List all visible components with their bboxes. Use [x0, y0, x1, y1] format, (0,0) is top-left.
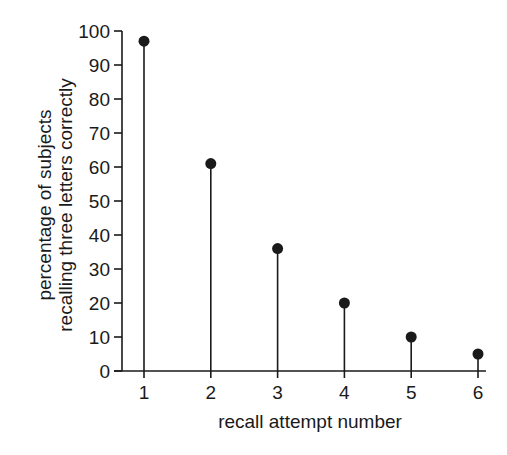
- y-tick-label: 40: [89, 225, 110, 246]
- data-stems: [139, 36, 484, 371]
- y-tick-label: 0: [99, 361, 110, 382]
- y-tick-label: 20: [89, 293, 110, 314]
- x-axis-label: recall attempt number: [218, 411, 402, 432]
- x-tick-label: 4: [339, 382, 350, 403]
- data-point-marker: [272, 243, 283, 254]
- y-tick-label: 100: [78, 21, 110, 42]
- data-point-marker: [406, 332, 417, 343]
- stem-chart: 0102030405060708090100 123456 recall att…: [0, 0, 507, 455]
- y-tick-label: 60: [89, 157, 110, 178]
- x-tick-label: 3: [272, 382, 283, 403]
- x-tick-label: 2: [206, 382, 217, 403]
- x-tick-label: 1: [139, 382, 150, 403]
- x-tick-label: 6: [473, 382, 484, 403]
- data-point-marker: [473, 349, 484, 360]
- data-point-marker: [339, 298, 350, 309]
- data-point-marker: [205, 158, 216, 169]
- y-tick-label: 80: [89, 89, 110, 110]
- y-axis-label: percentage of subjects recalling three l…: [34, 78, 76, 332]
- x-tick-label: 5: [406, 382, 417, 403]
- y-tick-label: 50: [89, 191, 110, 212]
- x-axis: 123456: [114, 371, 486, 403]
- y-tick-label: 70: [89, 123, 110, 144]
- data-point-marker: [139, 36, 150, 47]
- y-axis-label-line-2: recalling three letters correctly: [55, 78, 76, 332]
- y-tick-label: 90: [89, 55, 110, 76]
- y-axis-label-line-1: percentage of subjects: [34, 109, 55, 300]
- y-tick-label: 10: [89, 327, 110, 348]
- y-tick-label: 30: [89, 259, 110, 280]
- y-axis: 0102030405060708090100: [78, 21, 122, 382]
